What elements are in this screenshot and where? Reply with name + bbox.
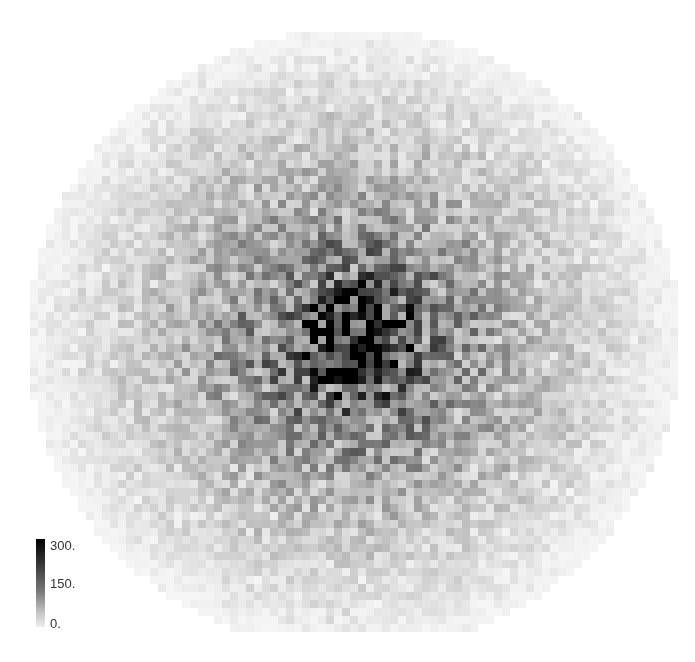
- legend-tick-max: 300.: [50, 539, 75, 552]
- legend-tick-mid: 150.: [50, 577, 75, 590]
- colorbar: [36, 539, 45, 627]
- color-legend: 300. 150. 0.: [36, 539, 96, 629]
- density-heatmap: [0, 0, 695, 662]
- legend-tick-min: 0.: [50, 617, 61, 630]
